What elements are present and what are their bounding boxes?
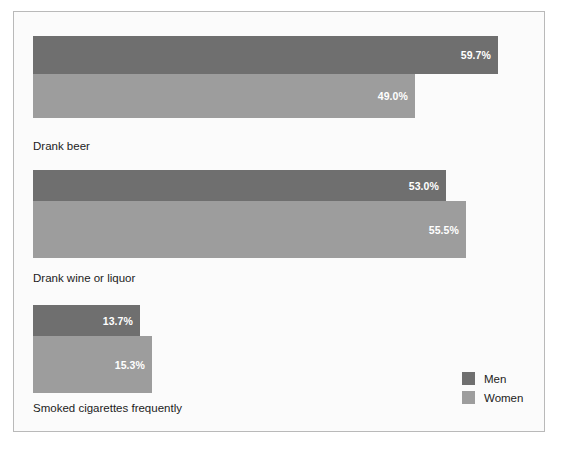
legend-label-men: Men bbox=[484, 373, 506, 385]
bar-men-drank-wine-or-liquor[interactable]: 53.0% bbox=[33, 170, 446, 201]
bar-women-smoked-cigarettes-frequently[interactable]: 15.3% bbox=[33, 336, 152, 393]
legend-swatch-women-icon bbox=[462, 391, 475, 404]
category-label-smoked-cigarettes-frequently: Smoked cigarettes frequently bbox=[33, 402, 182, 414]
category-label-drank-wine-or-liquor: Drank wine or liquor bbox=[33, 272, 135, 284]
bar-men-drank-beer[interactable]: 59.7% bbox=[33, 36, 498, 74]
bar-value-women-drank-beer: 49.0% bbox=[378, 90, 408, 102]
bar-value-men-smoked-cigarettes-frequently: 13.7% bbox=[103, 315, 133, 327]
legend-label-women: Women bbox=[484, 392, 523, 404]
plot-area: 59.7% 49.0% Drank beer 53.0% 55.5% Drank… bbox=[14, 12, 544, 431]
chart-legend: Men Women bbox=[462, 370, 552, 408]
bar-women-drank-beer[interactable]: 49.0% bbox=[33, 74, 415, 118]
chart-frame: 59.7% 49.0% Drank beer 53.0% 55.5% Drank… bbox=[13, 11, 545, 432]
page-bottom-artifact bbox=[330, 440, 545, 449]
category-label-drank-beer: Drank beer bbox=[33, 140, 90, 152]
bar-women-drank-wine-or-liquor[interactable]: 55.5% bbox=[33, 201, 466, 258]
legend-swatch-men-icon bbox=[462, 372, 475, 385]
bar-value-women-drank-wine-or-liquor: 55.5% bbox=[429, 224, 459, 236]
bar-group-drank-wine-or-liquor: 53.0% 55.5% bbox=[33, 170, 544, 258]
legend-item-men[interactable]: Men bbox=[462, 370, 552, 387]
legend-item-women[interactable]: Women bbox=[462, 389, 552, 406]
bar-value-men-drank-wine-or-liquor: 53.0% bbox=[409, 180, 439, 192]
bar-group-drank-beer: 59.7% 49.0% bbox=[33, 36, 544, 118]
bar-men-smoked-cigarettes-frequently[interactable]: 13.7% bbox=[33, 305, 140, 336]
bar-value-men-drank-beer: 59.7% bbox=[461, 49, 491, 61]
bar-value-women-smoked-cigarettes-frequently: 15.3% bbox=[115, 359, 145, 371]
